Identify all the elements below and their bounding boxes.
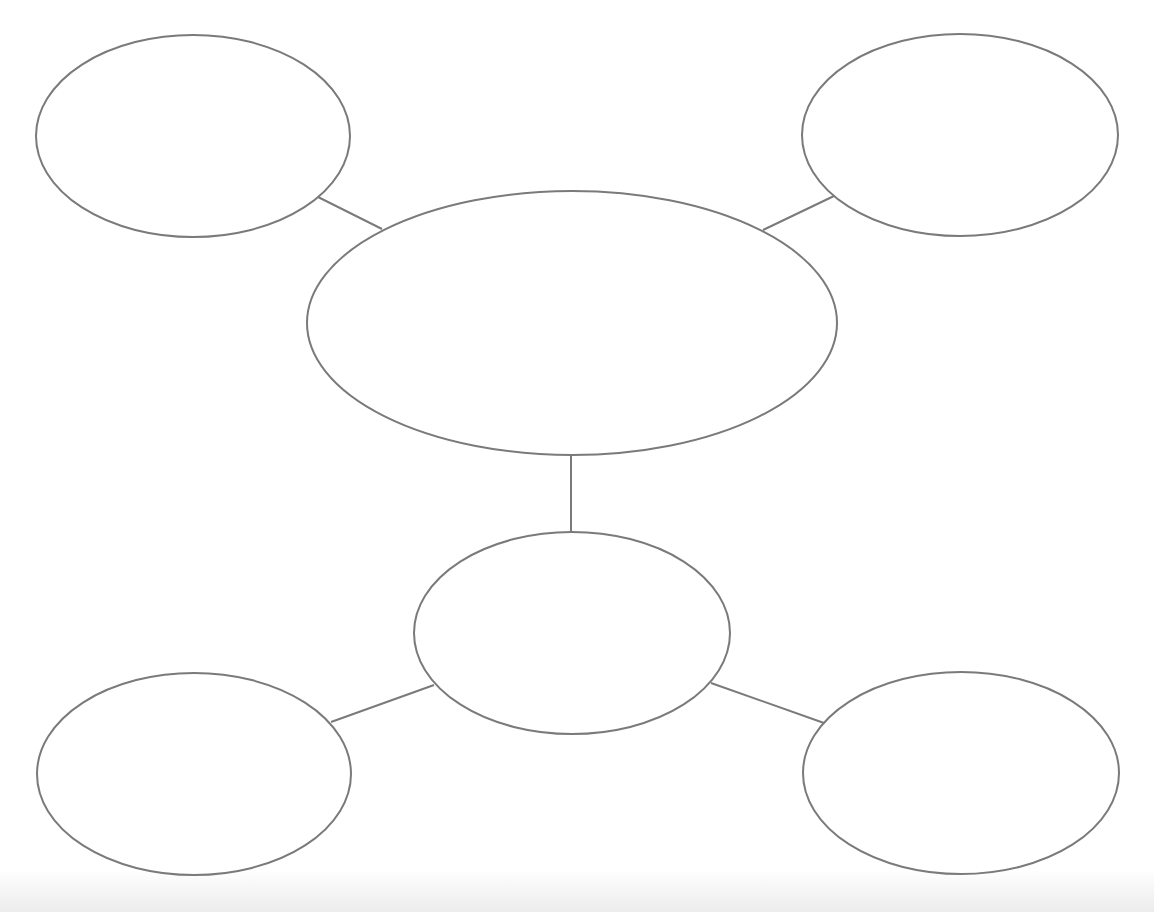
edge-middle-bottom-bottom-right xyxy=(711,683,824,723)
bottom-right-ellipse[interactable] xyxy=(803,672,1119,874)
edge-middle-bottom-bottom-left xyxy=(331,685,434,722)
edge-center-top-right xyxy=(763,196,834,230)
center-ellipse[interactable] xyxy=(307,191,837,455)
diagram-canvas xyxy=(0,0,1154,912)
node-top-right[interactable] xyxy=(802,34,1118,236)
node-center[interactable] xyxy=(307,191,837,455)
node-top-left[interactable] xyxy=(36,35,350,237)
edge-center-top-left xyxy=(318,197,382,229)
node-bottom-left[interactable] xyxy=(37,673,351,875)
nodes-layer xyxy=(36,34,1119,875)
node-bottom-right[interactable] xyxy=(803,672,1119,874)
bubble-map-diagram xyxy=(0,0,1154,912)
middle-bottom-ellipse[interactable] xyxy=(414,532,730,734)
bottom-left-ellipse[interactable] xyxy=(37,673,351,875)
top-right-ellipse[interactable] xyxy=(802,34,1118,236)
node-middle-bottom[interactable] xyxy=(414,532,730,734)
top-left-ellipse[interactable] xyxy=(36,35,350,237)
